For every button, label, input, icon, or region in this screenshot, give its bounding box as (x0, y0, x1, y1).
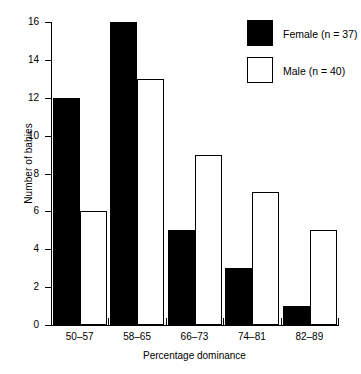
x-axis-tick-mark (281, 318, 282, 326)
x-axis-tick-mark (338, 318, 339, 326)
x-axis-tick-mark (108, 318, 109, 326)
legend-label-male: Male (n = 40) (283, 65, 345, 77)
bar-female (168, 230, 195, 325)
y-axis-tick-mark (45, 174, 51, 175)
y-axis-tick-label: 14 (17, 55, 39, 65)
y-axis-tick-label: 2 (17, 282, 39, 292)
y-axis-tick-mark (45, 136, 51, 137)
x-axis-tick-mark (223, 318, 224, 326)
y-axis-tick-mark (45, 22, 51, 23)
bar-male (137, 79, 164, 325)
x-axis-tick-mark (166, 318, 167, 326)
x-axis-category-label: 50–57 (50, 331, 110, 342)
y-axis-line (51, 22, 52, 326)
bar-chart-figure: Number of babies 0246810121416 50–5758–6… (0, 0, 361, 374)
y-axis-tick-mark (45, 211, 51, 212)
x-axis-category-label: 82–89 (279, 331, 339, 342)
y-axis-tick-label: 4 (17, 244, 39, 254)
x-axis-category-label: 74–81 (222, 331, 282, 342)
y-axis-tick-mark (45, 60, 51, 61)
x-axis-category-label: 66–73 (165, 331, 225, 342)
bar-male (195, 155, 222, 325)
y-axis-tick-mark (45, 287, 51, 288)
x-axis-tick-mark (51, 318, 52, 326)
legend-swatch-male (247, 57, 273, 83)
bar-female (225, 268, 252, 325)
x-axis-category-label: 58–65 (107, 331, 167, 342)
x-axis-line (51, 325, 338, 326)
bar-male (310, 230, 337, 325)
legend-swatch-female (247, 20, 273, 46)
y-axis-tick-label: 0 (17, 320, 39, 330)
bar-female (283, 306, 310, 325)
bar-female (53, 98, 80, 325)
y-axis-tick-label: 12 (17, 93, 39, 103)
y-axis-tick-label: 16 (17, 17, 39, 27)
y-axis-tick-label: 8 (17, 169, 39, 179)
y-axis-tick-label: 6 (17, 206, 39, 216)
bar-male (80, 211, 107, 325)
y-axis-tick-mark (45, 98, 51, 99)
legend-label-female: Female (n = 37) (283, 28, 357, 40)
x-axis-title: Percentage dominance (51, 350, 338, 361)
y-axis-title: Number of babies (23, 84, 34, 244)
y-axis-tick-mark (45, 249, 51, 250)
y-axis-tick-label: 10 (17, 131, 39, 141)
bar-female (110, 22, 137, 325)
bar-male (252, 192, 279, 325)
